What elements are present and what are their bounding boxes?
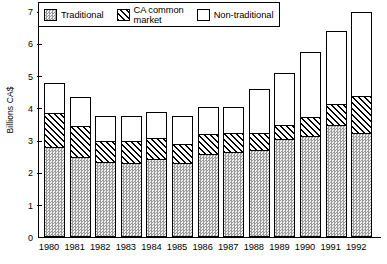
y-tick-label: 6 (11, 39, 33, 49)
legend-item-traditional[interactable]: Traditional (44, 9, 104, 21)
y-tick-label: 3 (11, 136, 33, 146)
bar-segment-non-traditional-1988 (249, 89, 270, 134)
legend-item-non-traditional[interactable]: Non-traditional (197, 9, 274, 21)
bar-segment-non-traditional-1980 (44, 83, 65, 115)
bar-segment-traditional-1985 (172, 163, 193, 237)
bar-segment-traditional-1987 (223, 152, 244, 237)
bar-segment-non-traditional-1992 (351, 12, 372, 97)
bar-segment-non-traditional-1989 (274, 73, 295, 126)
bar-segment-traditional-1984 (146, 158, 167, 237)
legend-label: CA common market (134, 5, 184, 25)
y-tick-label: 7 (11, 7, 33, 17)
bar-segment-non-traditional-1991 (326, 31, 347, 105)
bar-segment-traditional-1992 (351, 133, 372, 237)
bar-segment-non-traditional-1986 (198, 107, 219, 136)
bar-segment-non-traditional-1984 (146, 112, 167, 139)
stipple-swatch (44, 9, 57, 21)
chart-legend: TraditionalCA common marketNon-tradition… (38, 2, 280, 27)
bar-group-1989 (274, 74, 295, 237)
bar-segment-traditional-1982 (95, 162, 116, 237)
bar-segment-non-traditional-1983 (121, 116, 142, 141)
bar-segment-non-traditional-1987 (223, 107, 244, 134)
bar-segment-ca-common-market-1983 (121, 141, 142, 165)
legend-label: Traditional (61, 10, 104, 20)
y-tick-label: 5 (11, 72, 33, 82)
bar-segment-traditional-1981 (70, 157, 91, 237)
bar-segment-ca-common-market-1991 (326, 104, 347, 126)
bar-group-1983 (121, 118, 142, 237)
bar-group-1982 (95, 118, 116, 237)
y-tick-label: 2 (11, 168, 33, 178)
legend-item-ca-common-market[interactable]: CA common market (117, 5, 184, 25)
bar-group-1985 (172, 118, 193, 237)
bar-segment-traditional-1983 (121, 163, 142, 237)
bar-segment-ca-common-market-1990 (300, 116, 321, 136)
bar-group-1991 (326, 32, 347, 237)
y-tick-label: 1 (11, 201, 33, 211)
bar-segment-ca-common-market-1992 (351, 95, 372, 133)
legend-label: Non-traditional (214, 10, 274, 20)
bar-segment-ca-common-market-1986 (198, 134, 219, 154)
bar-segment-ca-common-market-1984 (146, 137, 167, 159)
bar-group-1990 (300, 53, 321, 237)
bar-group-1981 (70, 98, 91, 237)
bar-segment-ca-common-market-1982 (95, 141, 116, 163)
bar-group-1984 (146, 113, 167, 237)
chart-figure: Billions CA$ 01234567 198019811982198319… (0, 0, 387, 264)
bar-group-1987 (223, 108, 244, 237)
bar-segment-traditional-1989 (274, 139, 295, 237)
bar-segment-traditional-1980 (44, 147, 65, 237)
bar-segment-non-traditional-1981 (70, 97, 91, 127)
bar-segment-non-traditional-1985 (172, 116, 193, 145)
x-tick-label-1992: 1992 (341, 242, 371, 253)
bar-group-1980 (44, 84, 65, 237)
bar-segment-traditional-1988 (249, 150, 270, 237)
bar-segment-ca-common-market-1980 (44, 113, 65, 148)
bar-segment-ca-common-market-1988 (249, 133, 270, 152)
bar-group-1986 (198, 108, 219, 237)
bar-segment-traditional-1990 (300, 136, 321, 237)
bar-segment-non-traditional-1990 (300, 52, 321, 118)
y-tick-label: 4 (11, 104, 33, 114)
bar-segment-non-traditional-1982 (95, 116, 116, 141)
bar-segment-ca-common-market-1981 (70, 126, 91, 158)
bar-segment-traditional-1991 (326, 125, 347, 237)
bar-series-container (39, 12, 381, 237)
bar-segment-ca-common-market-1987 (223, 133, 244, 153)
x-axis-ticks: 1980198119821983198419851986198719881989… (38, 242, 381, 262)
plot-area (38, 12, 381, 238)
y-tick-label: 0 (11, 233, 33, 243)
hatch-swatch (117, 9, 130, 21)
bar-segment-traditional-1986 (198, 154, 219, 237)
bar-group-1988 (249, 90, 270, 237)
bar-segment-ca-common-market-1989 (274, 125, 295, 141)
bar-group-1992 (351, 13, 372, 237)
bar-segment-ca-common-market-1985 (172, 144, 193, 164)
white-swatch (197, 9, 210, 21)
